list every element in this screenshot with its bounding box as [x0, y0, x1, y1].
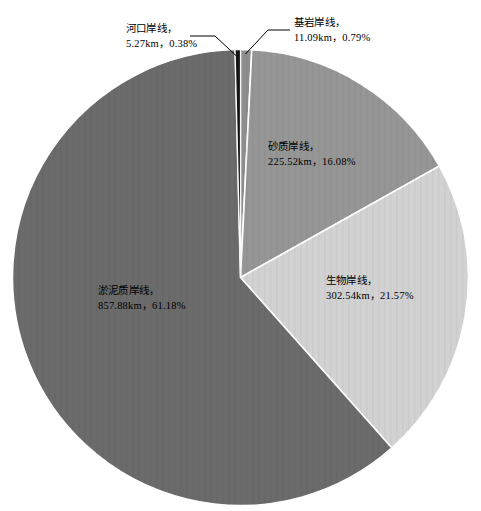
label-biological-value: 302.54km，21.57%: [326, 289, 414, 304]
label-bedrock-value: 11.09km，0.79%: [294, 31, 370, 46]
label-biological-name: 生物岸线，: [326, 274, 414, 289]
label-estuary-value: 5.27km，0.38%: [126, 37, 197, 52]
label-biological-shoreline: 生物岸线， 302.54km，21.57%: [326, 274, 414, 303]
label-sandy-name: 砂质岸线，: [268, 140, 356, 155]
label-muddy-shoreline: 淤泥质岸线， 857.88km，61.18%: [98, 284, 186, 313]
label-estuary-shoreline: 河口岸线， 5.27km，0.38%: [126, 22, 197, 51]
label-muddy-value: 857.88km，61.18%: [98, 299, 186, 314]
label-bedrock-shoreline: 基岩岸线， 11.09km，0.79%: [294, 16, 370, 45]
label-sandy-shoreline: 砂质岸线， 225.52km，16.08%: [268, 140, 356, 169]
label-sandy-value: 225.52km，16.08%: [268, 155, 356, 170]
pie-chart-figure: 河口岸线， 5.27km，0.38% 基岩岸线， 11.09km，0.79% 砂…: [0, 0, 481, 511]
label-bedrock-name: 基岩岸线，: [294, 16, 370, 31]
label-estuary-name: 河口岸线，: [126, 22, 197, 37]
pie-chart-canvas: [0, 0, 481, 511]
label-muddy-name: 淤泥质岸线，: [98, 284, 186, 299]
